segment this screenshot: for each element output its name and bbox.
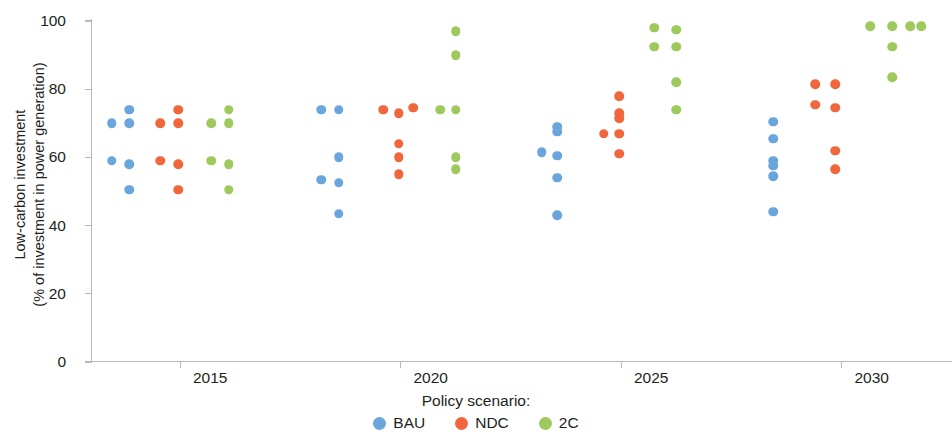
data-point-ndc	[156, 119, 166, 129]
data-point-ndc	[394, 153, 404, 163]
x-tick-mark	[621, 361, 622, 368]
data-point-ndc	[830, 103, 840, 113]
y-tick-label: 100	[22, 12, 66, 30]
legend-swatch-icon	[539, 417, 552, 430]
data-point-ndc	[173, 159, 183, 169]
legend-swatch-icon	[373, 417, 386, 430]
data-point-ndc	[408, 103, 418, 113]
legend-swatch-icon	[455, 417, 468, 430]
y-axis-ticks: 100806040200	[0, 0, 92, 442]
data-point-2c	[650, 23, 660, 33]
legend: Policy scenario: BAUNDC2C	[0, 392, 952, 432]
y-tick-mark	[85, 89, 91, 90]
y-tick-mark	[85, 225, 91, 226]
data-point-ndc	[599, 129, 609, 139]
x-tick-label: 2025	[634, 369, 668, 387]
data-point-2c	[672, 25, 682, 35]
data-point-ndc	[811, 79, 821, 89]
data-point-ndc	[830, 146, 840, 156]
data-point-ndc	[156, 156, 166, 166]
data-point-ndc	[394, 139, 404, 149]
x-tick-label: 2020	[413, 369, 447, 387]
legend-item-2c[interactable]: 2C	[539, 414, 579, 432]
y-tick-label: 60	[22, 148, 66, 166]
x-tick-mark	[180, 361, 181, 368]
data-point-2c	[866, 21, 876, 31]
legend-item-bau[interactable]: BAU	[373, 414, 425, 432]
data-point-bau	[769, 117, 779, 127]
data-point-2c	[451, 153, 461, 163]
data-point-2c	[888, 21, 898, 31]
data-point-ndc	[614, 129, 624, 139]
data-point-2c	[451, 165, 461, 175]
data-point-bau	[553, 211, 563, 221]
data-point-ndc	[394, 108, 404, 118]
data-point-bau	[769, 134, 779, 144]
data-point-2c	[206, 156, 216, 166]
data-point-ndc	[173, 185, 183, 195]
data-point-ndc	[614, 149, 624, 159]
data-point-bau	[125, 105, 135, 115]
data-point-2c	[451, 105, 461, 115]
data-point-bau	[553, 151, 563, 161]
data-point-ndc	[614, 91, 624, 101]
data-point-2c	[888, 73, 898, 83]
legend-item-label: NDC	[475, 414, 509, 432]
y-tick-mark	[85, 20, 91, 21]
legend-title: Policy scenario:	[0, 392, 952, 410]
x-tick-label: 2015	[193, 369, 227, 387]
data-point-ndc	[614, 113, 624, 123]
data-point-2c	[436, 105, 446, 115]
y-tick-label: 40	[22, 217, 66, 235]
legend-item-label: 2C	[559, 414, 579, 432]
x-tick-mark	[841, 361, 842, 368]
data-point-ndc	[811, 100, 821, 110]
data-point-bau	[769, 207, 779, 217]
data-point-2c	[672, 105, 682, 115]
x-tick-mark	[400, 361, 401, 368]
data-point-bau	[334, 209, 344, 219]
data-point-2c	[224, 159, 234, 169]
data-point-bau	[107, 156, 117, 166]
data-point-2c	[206, 119, 216, 129]
data-point-bau	[553, 173, 563, 183]
data-point-bau	[334, 153, 344, 163]
legend-item-ndc[interactable]: NDC	[455, 414, 509, 432]
data-point-2c	[451, 26, 461, 36]
data-point-2c	[905, 21, 915, 31]
plot-area	[92, 21, 952, 362]
data-point-2c	[916, 21, 926, 31]
y-tick-label: 20	[22, 285, 66, 303]
data-point-2c	[451, 50, 461, 60]
data-point-bau	[334, 105, 344, 115]
legend-items: BAUNDC2C	[0, 414, 952, 432]
data-point-bau	[125, 159, 135, 169]
data-point-ndc	[830, 165, 840, 175]
y-tick-mark	[85, 157, 91, 158]
data-point-2c	[650, 42, 660, 52]
x-tick-label: 2030	[854, 369, 888, 387]
data-point-2c	[672, 42, 682, 52]
y-tick-mark	[85, 293, 91, 294]
data-point-ndc	[378, 105, 388, 115]
data-point-2c	[672, 78, 682, 88]
data-point-bau	[769, 161, 779, 171]
data-point-2c	[224, 119, 234, 129]
data-point-2c	[224, 185, 234, 195]
scatter-chart-figure: Low-carbon investment (% of investment i…	[0, 0, 952, 442]
data-point-bau	[317, 175, 327, 185]
data-point-bau	[125, 119, 135, 129]
data-point-bau	[125, 185, 135, 195]
data-point-ndc	[173, 105, 183, 115]
data-point-bau	[553, 127, 563, 137]
data-point-bau	[107, 119, 117, 129]
data-point-bau	[537, 148, 547, 158]
data-point-ndc	[394, 170, 404, 180]
data-point-2c	[888, 42, 898, 52]
data-point-bau	[769, 171, 779, 181]
legend-item-label: BAU	[393, 414, 425, 432]
y-tick-label: 0	[22, 353, 66, 371]
data-point-bau	[317, 105, 327, 115]
data-point-2c	[224, 105, 234, 115]
data-point-bau	[334, 178, 344, 188]
